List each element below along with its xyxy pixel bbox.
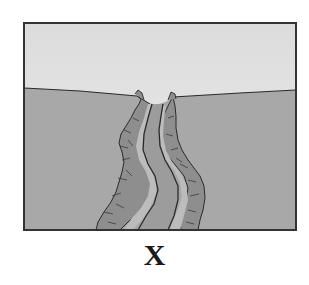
figure-label: X	[0, 238, 309, 272]
canyon-diagram: X	[0, 0, 309, 285]
